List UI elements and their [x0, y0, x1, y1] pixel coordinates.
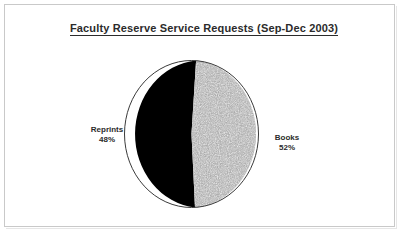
pie-label-books-percent: 52% [252, 143, 322, 153]
frame-shadow-bottom [6, 228, 397, 229]
pie-label-reprints: Reprints 48% [72, 125, 142, 145]
pie-label-reprints-percent: 48% [72, 135, 142, 145]
pie-label-reprints-name: Reprints [91, 125, 123, 134]
pie-label-books-name: Books [275, 133, 299, 142]
frame-shadow-right [396, 6, 397, 229]
pie-chart [124, 60, 259, 208]
chart-image: Faculty Reserve Service Requests (Sep-De… [0, 0, 408, 243]
chart-title-text: Faculty Reserve Service Requests (Sep-De… [70, 22, 338, 36]
pie-svg [124, 60, 259, 208]
pie-label-books: Books 52% [252, 133, 322, 153]
chart-title: Faculty Reserve Service Requests (Sep-De… [0, 22, 408, 34]
